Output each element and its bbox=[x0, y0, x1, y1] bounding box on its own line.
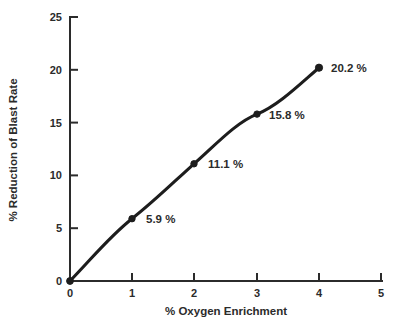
data-series-line bbox=[70, 68, 319, 281]
y-tick-label-5: 5 bbox=[56, 223, 62, 234]
y-tick-marks bbox=[70, 17, 78, 281]
chart-figure: 25 20 15 10 5 0 0 1 2 3 4 5 % Oxygen Enr… bbox=[0, 0, 398, 329]
point-annotation-2: 11.1 % bbox=[208, 159, 243, 171]
x-tick-label-1: 1 bbox=[129, 288, 135, 299]
x-tick-marks bbox=[70, 273, 381, 281]
point-annotation-4: 20.2 % bbox=[331, 63, 367, 75]
data-point-2 bbox=[191, 161, 197, 167]
point-annotation-1: 5.9 % bbox=[146, 214, 175, 226]
x-tick-label-4: 4 bbox=[316, 288, 322, 299]
y-tick-label-15: 15 bbox=[50, 117, 62, 128]
data-point-0 bbox=[67, 278, 74, 285]
x-tick-label-0: 0 bbox=[67, 288, 73, 299]
x-axis-title: % Oxygen Enrichment bbox=[165, 306, 287, 318]
data-point-3 bbox=[254, 111, 260, 117]
x-tick-label-5: 5 bbox=[378, 288, 384, 299]
data-point-4 bbox=[315, 64, 322, 71]
data-point-1 bbox=[129, 216, 135, 222]
y-tick-label-10: 10 bbox=[50, 170, 62, 181]
y-tick-label-20: 20 bbox=[50, 64, 62, 75]
x-tick-label-2: 2 bbox=[191, 288, 197, 299]
point-annotation-3: 15.8 % bbox=[269, 110, 305, 122]
x-tick-label-3: 3 bbox=[254, 288, 260, 299]
y-tick-label-25: 25 bbox=[50, 12, 62, 23]
y-tick-label-0: 0 bbox=[56, 276, 62, 287]
y-axis-title: % Reduction of Blast Rate bbox=[8, 78, 20, 221]
